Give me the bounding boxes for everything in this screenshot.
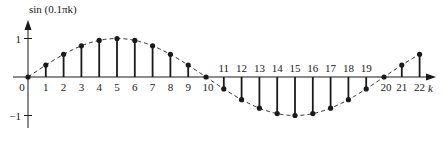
y-axis-label: sin (0.1πk)	[29, 3, 77, 16]
x-axis-label: k	[428, 82, 434, 94]
x-tick-label: 10	[203, 81, 215, 93]
x-tick-label: 14	[272, 62, 284, 74]
stem-marker-dot	[43, 63, 48, 68]
x-tick-label: 22	[414, 81, 425, 93]
x-tick-label: 3	[79, 81, 85, 93]
x-tick-label: 2	[61, 81, 67, 93]
stem-marker-dot	[239, 97, 244, 102]
x-tick-label: 18	[343, 62, 355, 74]
axes	[13, 20, 436, 128]
x-tick-label: 17	[325, 62, 337, 74]
stem-marker-dot	[364, 86, 369, 91]
stem-marker-dot	[114, 36, 119, 41]
x-tick-label: 12	[236, 62, 247, 74]
stem-plot: 1−1012345678910111213141516171819202122 …	[0, 0, 445, 141]
x-tick-label: 0	[19, 81, 25, 93]
stem-marker-dot	[186, 63, 191, 68]
y-tick-label: 1	[16, 33, 22, 45]
stem-marker-dot	[25, 74, 30, 79]
stem-marker-dot	[399, 63, 404, 68]
stem-marker-dot	[346, 97, 351, 102]
x-tick-label: 16	[307, 62, 319, 74]
x-tick-label: 8	[168, 81, 174, 93]
x-tick-label: 5	[114, 81, 120, 93]
stem-marker-dot	[203, 74, 208, 79]
y-axis-arrow-icon	[25, 20, 32, 30]
x-tick-label: 7	[150, 81, 156, 93]
stem-marker-dot	[275, 111, 280, 116]
x-tick-label: 4	[96, 81, 102, 93]
stem-marker-dot	[150, 43, 155, 48]
x-tick-label: 9	[185, 81, 191, 93]
stem-marker-dot	[61, 52, 66, 57]
x-tick-label: 1	[43, 81, 49, 93]
x-tick-label: 6	[132, 81, 138, 93]
stem-marker-dot	[257, 106, 262, 111]
stem-marker-dot	[310, 111, 315, 116]
stem-marker-dot	[328, 106, 333, 111]
y-tick-label: −1	[9, 110, 21, 122]
stem-marker-dot	[132, 38, 137, 43]
x-tick-label: 20	[381, 81, 393, 93]
stem-marker-dot	[168, 52, 173, 57]
x-tick-label: 11	[219, 62, 230, 74]
x-tick-label: 19	[361, 62, 373, 74]
x-tick-label: 13	[254, 62, 266, 74]
stem-marker-dot	[292, 113, 297, 118]
stem-marker-dot	[381, 74, 386, 79]
x-tick-label: 21	[396, 81, 407, 93]
stem-marker-dot	[221, 86, 226, 91]
x-tick-label: 15	[290, 62, 302, 74]
x-axis-arrow-icon	[426, 74, 436, 81]
stem-marker-dot	[97, 38, 102, 43]
stem-marker-dot	[417, 52, 422, 57]
stem-marker-dot	[79, 43, 84, 48]
